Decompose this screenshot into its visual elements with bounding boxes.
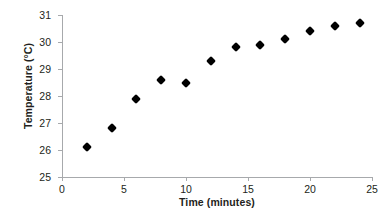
data-point: [231, 42, 241, 52]
x-tick-label: 20: [304, 183, 316, 195]
y-tick-label: 26: [39, 144, 51, 156]
data-point: [255, 40, 265, 50]
x-axis-title: Time (minutes): [62, 196, 372, 208]
y-tick-label: 27: [39, 117, 51, 129]
x-tick: [372, 177, 373, 181]
y-tick: 29: [58, 69, 62, 70]
y-tick: 26: [58, 150, 62, 151]
y-tick-label: 25: [39, 171, 51, 183]
y-tick: 27: [58, 123, 62, 124]
x-tick: [124, 177, 125, 181]
data-point: [82, 142, 92, 152]
y-tick: 28: [58, 96, 62, 97]
x-tick-label: 5: [121, 183, 127, 195]
x-tick-label: 15: [242, 183, 254, 195]
x-axis-line: [62, 177, 373, 178]
data-point: [181, 78, 191, 88]
y-axis-title: Temperature (°C): [22, 6, 34, 166]
data-point: [131, 94, 141, 104]
data-point: [280, 34, 290, 44]
y-tick-label: 30: [39, 36, 51, 48]
data-point: [107, 123, 117, 133]
data-point: [355, 18, 365, 28]
data-point: [206, 56, 216, 66]
y-tick: 30: [58, 42, 62, 43]
x-tick: [186, 177, 187, 181]
y-tick: 31: [58, 15, 62, 16]
scatter-chart: Temperature (°C) 25262728293031 05101520…: [0, 0, 392, 219]
x-tick-label: 25: [366, 183, 378, 195]
data-point: [305, 26, 315, 36]
x-tick-label: 10: [180, 183, 192, 195]
x-tick-label: 0: [59, 183, 65, 195]
y-tick-label: 29: [39, 63, 51, 75]
y-tick-label: 28: [39, 90, 51, 102]
data-point: [156, 75, 166, 85]
x-tick: [62, 177, 63, 181]
plot-area: 25262728293031 0510152025: [62, 15, 372, 177]
x-tick: [248, 177, 249, 181]
y-axis-line: [62, 15, 63, 178]
x-tick: [310, 177, 311, 181]
data-point: [330, 21, 340, 31]
y-tick-label: 31: [39, 9, 51, 21]
